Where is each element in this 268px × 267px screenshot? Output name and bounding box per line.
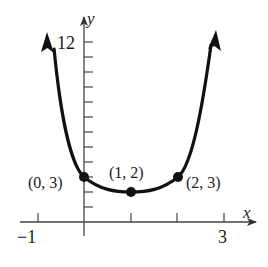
- point-label-1-2: (1, 2): [109, 164, 144, 182]
- x-tick-label-neg1: −1: [17, 227, 36, 247]
- point-label-0-3: (0, 3): [28, 174, 63, 192]
- point-label-2-3: (2, 3): [186, 174, 221, 192]
- point-0-3: [79, 172, 89, 182]
- y-tick-label-12: 12: [57, 33, 75, 53]
- x-ticks: [38, 213, 224, 222]
- point-2-3: [173, 172, 183, 182]
- chart-canvas: y x 12 −1 3 (0, 3) (1, 2) (2, 3): [0, 0, 268, 267]
- curve-arrow-left-icon: [41, 32, 54, 53]
- x-tick-label-3: 3: [218, 227, 227, 247]
- curve-arrow-right-icon: [208, 30, 221, 51]
- y-axis-label: y: [85, 9, 95, 28]
- point-1-2: [126, 187, 136, 197]
- x-axis-label: x: [242, 203, 251, 222]
